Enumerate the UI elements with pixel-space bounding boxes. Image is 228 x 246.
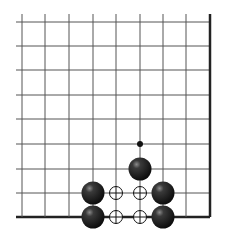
black-stone xyxy=(129,158,152,181)
black-stone xyxy=(82,206,105,229)
black-stone xyxy=(82,182,105,205)
go-board xyxy=(0,0,228,246)
black-stone xyxy=(152,182,175,205)
black-stone xyxy=(152,206,175,229)
small-dot-mark xyxy=(137,141,143,147)
